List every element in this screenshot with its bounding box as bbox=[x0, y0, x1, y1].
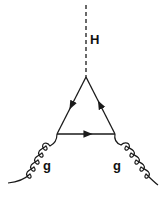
quark-loop bbox=[57, 77, 115, 134]
gluon-left-label: g bbox=[43, 158, 51, 173]
gluon-right-propagator bbox=[115, 134, 158, 185]
higgs-label: H bbox=[90, 32, 99, 47]
feynman-diagram: H g g bbox=[0, 0, 166, 197]
quark-left-line bbox=[57, 77, 86, 134]
quark-right-line bbox=[86, 77, 115, 134]
gluon-right-label: g bbox=[113, 158, 121, 173]
